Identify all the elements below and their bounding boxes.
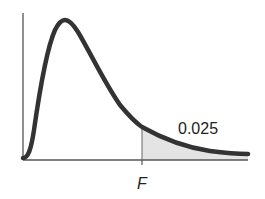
critical-value-label: F (137, 175, 148, 192)
tail-area-label: 0.025 (178, 120, 218, 137)
f-distribution-chart: 0.025 F (0, 0, 265, 199)
density-curve (23, 20, 248, 158)
